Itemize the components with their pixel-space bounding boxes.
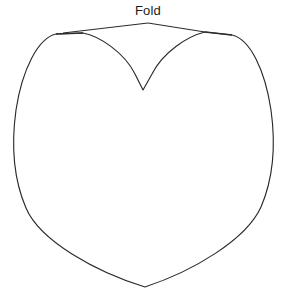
pattern-template-canvas: Fold (0, 0, 286, 299)
heart-pattern-svg: Fold (0, 0, 286, 299)
fold-leader-line-right (148, 23, 205, 32)
heart-outline-path (14, 32, 274, 287)
fold-leader-line-left (63, 23, 148, 33)
fold-edge-left (56, 33, 83, 34)
fold-edge-right (205, 32, 232, 35)
fold-label: Fold (135, 3, 161, 18)
